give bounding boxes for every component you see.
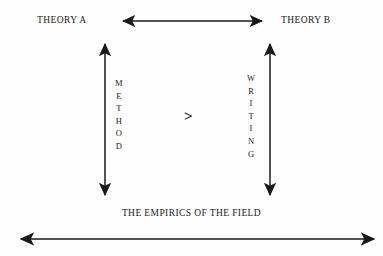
method-axis-label: METHOD <box>115 77 123 153</box>
stacked-letter: D <box>116 140 122 153</box>
stacked-letter: H <box>116 115 122 128</box>
theory-empirics-diagram: THEORY A THEORY B METHOD WRITING > THE E… <box>0 0 383 256</box>
empirics-of-the-field-label: THE EMPIRICS OF THE FIELD <box>0 207 383 219</box>
stacked-letter: M <box>115 77 123 90</box>
stacked-letter: I <box>250 97 253 110</box>
greater-than-icon: > <box>184 108 193 124</box>
stacked-letter: R <box>248 85 254 98</box>
stacked-letter: N <box>248 135 254 148</box>
theory-a-label: THEORY A <box>37 15 87 26</box>
stacked-letter: W <box>247 72 255 85</box>
stacked-letter: G <box>248 148 254 161</box>
theory-b-label: THEORY B <box>281 15 331 26</box>
stacked-letter: T <box>116 102 121 115</box>
stacked-letter: O <box>116 127 122 140</box>
stacked-letter: I <box>250 122 253 135</box>
stacked-letter: E <box>116 90 121 103</box>
writing-axis-label: WRITING <box>247 72 255 160</box>
stacked-letter: T <box>248 110 253 123</box>
